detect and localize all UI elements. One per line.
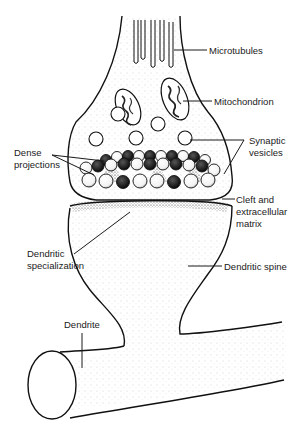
svg-text:Dendritic: Dendritic [27,248,65,259]
svg-text:projections: projections [14,159,60,170]
svg-text:Dendritic spine: Dendritic spine [224,261,287,272]
diagram-canvas: Microtubules Mitochondrion Synaptic vesi… [0,0,307,436]
svg-text:Dense: Dense [14,147,41,158]
presynaptic-terminal [68,16,232,200]
svg-text:Mitochondrion: Mitochondrion [214,96,274,107]
svg-text:extracellular: extracellular [236,206,287,217]
svg-text:specialization: specialization [27,260,84,271]
svg-text:vesicles: vesicles [249,147,283,158]
synapse-diagram: Microtubules Mitochondrion Synaptic vesi… [0,0,307,436]
svg-text:Synaptic: Synaptic [249,135,286,146]
dendritic-spine [42,199,286,414]
label-microtubules: Microtubules [174,45,263,56]
svg-text:matrix: matrix [236,218,262,229]
svg-text:Dendrite: Dendrite [64,319,100,330]
svg-text:Microtubules: Microtubules [209,45,263,56]
svg-text:Cleft and: Cleft and [236,194,274,205]
